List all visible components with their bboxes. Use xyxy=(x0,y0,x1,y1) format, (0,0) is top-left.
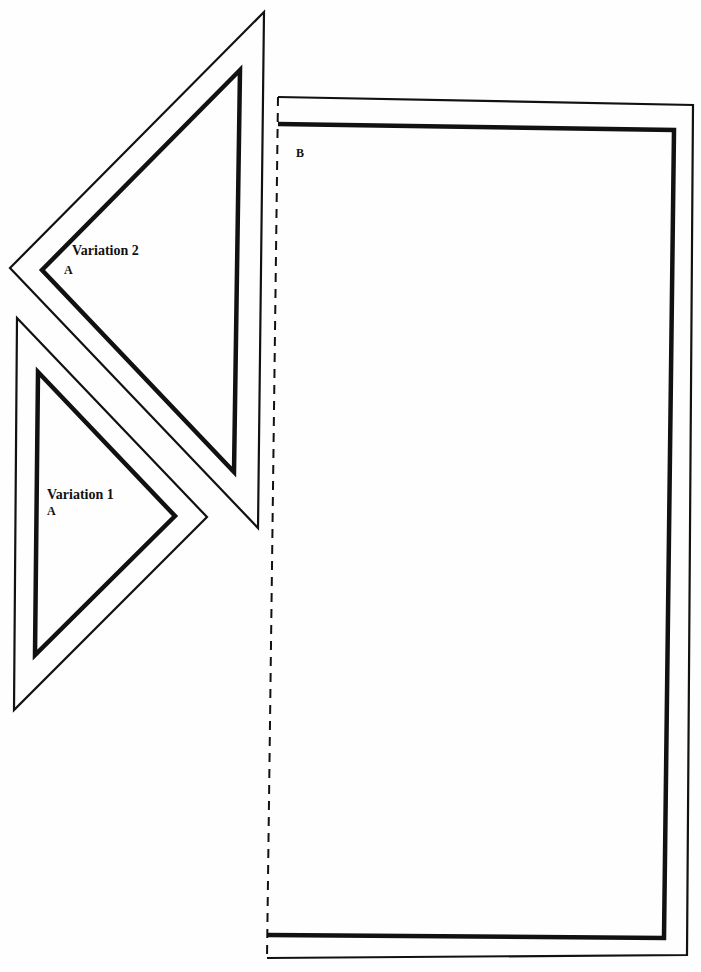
variation-2-cut-line xyxy=(10,12,264,528)
piece-b-cut-line xyxy=(267,97,693,958)
variation-1-seam-line xyxy=(35,372,175,655)
variation-1-letter: A xyxy=(47,505,56,517)
piece-b-seam-line xyxy=(268,124,674,938)
variation-2-letter: A xyxy=(64,264,73,276)
piece-b xyxy=(267,97,693,958)
piece-b-letter: B xyxy=(296,147,304,159)
pattern-drawing xyxy=(0,0,701,972)
variation-1-title: Variation 1 xyxy=(47,488,114,502)
piece-b-fold-line xyxy=(267,97,278,958)
variation-1-piece xyxy=(14,318,207,710)
pattern-page: Variation 2 A Variation 1 A B xyxy=(0,0,701,972)
variation-2-piece xyxy=(10,12,264,528)
variation-2-title: Variation 2 xyxy=(72,244,139,258)
